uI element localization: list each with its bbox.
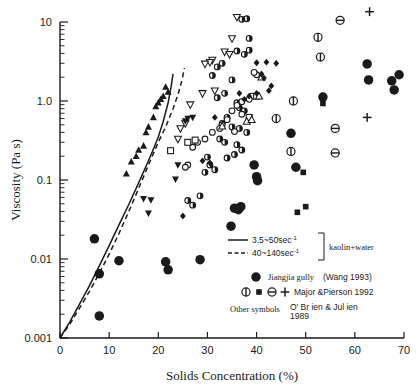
marker-filled-circle — [364, 75, 374, 85]
marker-open-circle — [182, 164, 188, 170]
legend-label-wang-1993: (Wang 1993) — [323, 272, 372, 282]
marker-filled-circle — [291, 163, 301, 173]
x-axis-tick-label: 0 — [57, 344, 63, 356]
y-axis-tick-label: 1.0 — [37, 95, 52, 107]
marker-open-circle — [202, 136, 208, 142]
marker-filled-circle — [286, 129, 296, 139]
marker-half-circle — [234, 48, 240, 54]
legend-label-shear-rate-1: 3.5~50sec-1 — [252, 235, 297, 245]
marker-filled-circle — [394, 70, 404, 80]
marker-circle-vbar — [316, 53, 324, 61]
x-axis-tick-label: 60 — [349, 344, 361, 356]
marker-open-circle — [232, 129, 238, 135]
marker-filled-circle — [114, 256, 124, 266]
marker-half-circle — [214, 95, 220, 101]
y-axis-tick-label: 0.01 — [31, 253, 52, 265]
marker-open-square — [192, 137, 198, 143]
chart-figure: 0102030405060700.0010.010.11.010 Solids … — [0, 0, 417, 387]
marker-half-circle — [239, 147, 245, 153]
legend-label-kaolin-water: kaolin+water — [329, 242, 374, 252]
marker-circle-hbar — [331, 124, 339, 132]
marker-filled-square — [303, 204, 309, 210]
marker-circle-hbar — [268, 288, 276, 296]
marker-half-circle — [241, 51, 247, 57]
marker-open-circle — [234, 103, 240, 109]
marker-filled-circle — [389, 85, 399, 95]
marker-filled-circle — [318, 92, 328, 102]
marker-circle-vbar — [242, 288, 250, 296]
marker-filled-square — [300, 170, 306, 176]
marker-open-circle — [251, 70, 257, 76]
legend-label-shear-rate-2: 40~140sec-1 — [252, 248, 300, 258]
legend-label-major-pierson-1992: Major &Pierson 1992 — [294, 287, 374, 297]
marker-circle-vbar — [287, 147, 295, 155]
marker-filled-circle — [251, 272, 261, 282]
marker-open-circle — [229, 108, 235, 114]
marker-half-circle — [222, 90, 228, 96]
marker-half-circle — [232, 152, 238, 158]
y-axis-tick-label: 10 — [40, 16, 52, 28]
marker-half-circle — [214, 64, 220, 70]
marker-half-circle — [239, 16, 245, 22]
marker-filled-square — [256, 289, 262, 295]
marker-open-circle — [224, 117, 230, 123]
marker-filled-circle — [163, 265, 173, 275]
marker-filled-circle — [195, 255, 205, 265]
marker-filled-square — [295, 209, 301, 215]
marker-half-circle — [205, 154, 211, 160]
marker-half-circle — [246, 47, 252, 53]
marker-half-circle — [202, 169, 208, 175]
marker-open-square — [168, 148, 174, 154]
marker-filled-circle — [362, 59, 372, 69]
x-axis-tick-label: 10 — [103, 344, 115, 356]
marker-filled-circle — [226, 221, 236, 231]
marker-circle-hbar — [331, 149, 339, 157]
marker-half-circle — [244, 130, 250, 136]
marker-circle-vbar — [314, 33, 322, 41]
marker-half-circle — [190, 202, 196, 208]
marker-circle-vbar — [272, 114, 280, 122]
marker-half-circle — [224, 155, 230, 161]
marker-filled-circle — [253, 176, 263, 186]
marker-filled-circle — [90, 234, 100, 244]
marker-half-circle — [209, 73, 215, 79]
marker-half-circle — [212, 167, 218, 173]
viscosity-vs-solids-concentration-scatter-plot: 0102030405060700.0010.010.11.010 Solids … — [0, 0, 417, 387]
marker-circle-vbar — [289, 97, 297, 105]
marker-filled-circle — [95, 311, 105, 321]
marker-open-circle — [209, 130, 215, 136]
marker-open-circle — [239, 111, 245, 117]
legend-label-jiangjia-gully: Jiangjia gully — [268, 272, 315, 282]
marker-half-circle — [246, 36, 252, 42]
marker-half-circle — [234, 142, 240, 148]
figure-background — [0, 0, 417, 387]
marker-half-circle — [222, 139, 228, 145]
marker-circle-hbar — [336, 16, 344, 24]
marker-filled-circle — [95, 269, 105, 279]
legend-label-obrien-julien-year: 1989 — [290, 311, 309, 321]
exponent: -1 — [291, 235, 297, 241]
x-axis-tick-label: 50 — [300, 344, 312, 356]
marker-half-circle — [229, 77, 235, 83]
x-axis-tick-label: 40 — [250, 344, 262, 356]
marker-filled-circle — [249, 160, 259, 170]
legend-label-other-symbols: Other symbols — [230, 304, 280, 314]
y-axis-tick-label: 0.1 — [37, 174, 52, 186]
marker-half-circle — [185, 198, 191, 204]
marker-half-circle — [197, 193, 203, 199]
x-axis-tick-label: 30 — [201, 344, 213, 356]
y-axis-tick-label: 0.001 — [24, 332, 52, 344]
x-axis-tick-label: 20 — [152, 344, 164, 356]
y-axis-title: Viscosity (Pa s) — [8, 139, 23, 221]
marker-open-square — [185, 139, 191, 145]
marker-filled-circle — [236, 202, 246, 212]
x-axis-title: Solids Concentration (%) — [166, 368, 298, 383]
x-axis-tick-label: 70 — [398, 344, 410, 356]
marker-filled-square — [320, 101, 326, 107]
marker-filled-circle — [387, 76, 397, 86]
exponent: -1 — [294, 248, 300, 254]
